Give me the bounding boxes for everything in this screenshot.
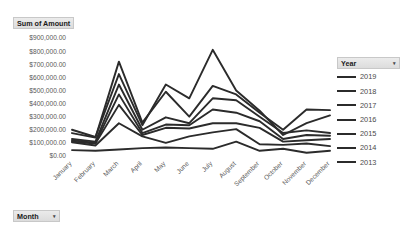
y-axis-tick-label: $100,000.00 xyxy=(29,139,66,146)
legend-swatch-icon xyxy=(337,104,356,106)
legend-item-label: 2015 xyxy=(360,130,376,137)
field-button-month-label: Month xyxy=(14,212,42,221)
y-axis-tick-label: $300,000.00 xyxy=(29,113,66,120)
y-axis-tick-label: $0.00 xyxy=(49,152,66,159)
legend-item-2018[interactable]: 2018 xyxy=(337,84,403,98)
y-axis-tick-label: $800,000.00 xyxy=(29,48,66,55)
legend-item-2015[interactable]: 2015 xyxy=(337,127,403,141)
legend-item-2014[interactable]: 2014 xyxy=(337,141,403,155)
legend-swatch-icon xyxy=(337,133,356,135)
chart-legend: 2019201820172016201520142013 xyxy=(337,70,403,169)
y-axis-tick-label: $700,000.00 xyxy=(29,61,66,68)
x-axis-tick-label: March xyxy=(102,160,120,178)
legend-item-2017[interactable]: 2017 xyxy=(337,98,403,112)
x-axis-tick-label: August xyxy=(217,160,237,180)
x-axis-tick-label: June xyxy=(175,160,190,175)
legend-item-label: 2013 xyxy=(360,159,376,166)
x-axis-tick-label: January xyxy=(51,159,74,182)
y-axis-tick-label: $600,000.00 xyxy=(29,74,66,81)
chevron-down-icon: ▾ xyxy=(53,214,59,219)
field-button-year-label: Year xyxy=(338,59,359,68)
legend-swatch-icon xyxy=(337,161,356,163)
x-axis-tick-label: May xyxy=(153,159,168,174)
y-axis-tick-label: $900,000.00 xyxy=(29,34,66,41)
field-button-year[interactable]: Year ▾ xyxy=(337,57,400,69)
y-axis-tick-label: $200,000.00 xyxy=(29,126,66,133)
x-axis-tick-label: September xyxy=(233,159,262,188)
legend-item-2019[interactable]: 2019 xyxy=(337,70,403,84)
legend-swatch-icon xyxy=(337,119,356,121)
x-axis-tick-label: October xyxy=(262,159,284,181)
x-axis-tick-label: April xyxy=(129,159,144,174)
x-axis-tick-label: July xyxy=(200,159,214,173)
x-axis-tick-label: February xyxy=(73,159,98,184)
legend-item-label: 2018 xyxy=(360,88,376,95)
legend-item-label: 2014 xyxy=(360,144,376,151)
legend-item-label: 2019 xyxy=(360,73,376,80)
series-line-2013 xyxy=(72,142,330,153)
y-axis-tick-label: $400,000.00 xyxy=(29,100,66,107)
legend-swatch-icon xyxy=(337,147,356,149)
field-button-month[interactable]: Month ▾ xyxy=(13,210,60,222)
legend-item-label: 2016 xyxy=(360,116,376,123)
y-axis-tick-label: $500,000.00 xyxy=(29,87,66,94)
chevron-down-icon: ▾ xyxy=(393,61,399,66)
legend-swatch-icon xyxy=(337,76,356,78)
pivotchart-root: Sum of Amount $900,000.00$800,000.00$700… xyxy=(0,0,413,242)
legend-item-2016[interactable]: 2016 xyxy=(337,113,403,127)
x-axis-tick-label: December xyxy=(304,159,331,186)
legend-item-label: 2017 xyxy=(360,102,376,109)
legend-swatch-icon xyxy=(337,90,356,92)
legend-item-2013[interactable]: 2013 xyxy=(337,155,403,169)
